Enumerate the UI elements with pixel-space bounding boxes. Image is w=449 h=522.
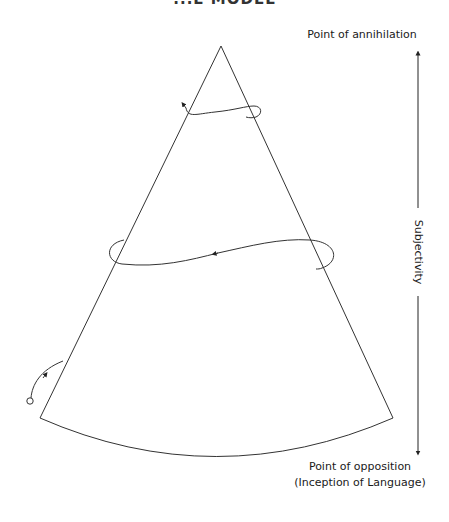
label-point-of-opposition: Point of opposition (Inception of Langua…: [286, 459, 434, 491]
cone-outline: [40, 46, 393, 457]
cone-diagram: ...E MODEL: [0, 0, 449, 522]
label-point-of-annihilation: Point of annihilation: [300, 27, 424, 43]
cone-drawing: [0, 0, 449, 522]
label-bottom-line2: (Inception of Language): [286, 475, 434, 491]
middle-spiral: [110, 240, 334, 269]
label-bottom-line1: Point of opposition: [286, 459, 434, 475]
upper-spiral: [183, 104, 261, 118]
label-subjectivity: Subjectivity: [412, 217, 425, 288]
